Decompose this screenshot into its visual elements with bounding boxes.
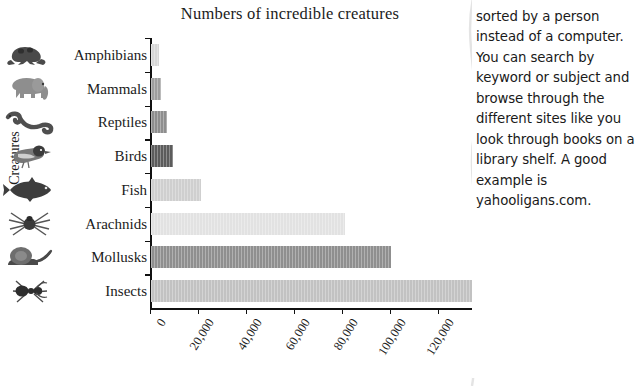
category-label: Mammals (87, 80, 147, 97)
value-tick-label: 20,000 (187, 316, 218, 353)
value-tick-label: 80,000 (331, 316, 362, 353)
bar-chart: Numbers of incredible creatures Creature… (0, 0, 472, 378)
category-label: Insects (105, 283, 147, 300)
bar (151, 246, 391, 268)
bar-texture (151, 246, 391, 268)
category-tick (145, 173, 151, 174)
bar (151, 44, 159, 66)
ant-icon (2, 276, 58, 306)
category-icon (2, 107, 58, 137)
category-icon (2, 242, 58, 272)
category-label: Reptiles (98, 114, 147, 131)
bar (151, 213, 345, 235)
value-tick (150, 308, 151, 314)
category-icon (2, 141, 58, 171)
bar (151, 78, 161, 100)
category-label: Arachnids (85, 215, 147, 232)
category-icon (2, 175, 58, 205)
value-tick (438, 308, 439, 314)
category-tick (145, 274, 151, 275)
spider-icon (2, 209, 58, 239)
bar-texture (151, 78, 161, 100)
value-tick-label: 40,000 (235, 316, 266, 353)
bar (151, 179, 201, 201)
fish-icon (2, 175, 58, 205)
bar (151, 145, 173, 167)
elephant-icon (2, 74, 58, 104)
chart-title: Numbers of incredible creatures (120, 4, 460, 24)
category-label: Birds (114, 148, 147, 165)
category-tick (145, 106, 151, 107)
bar-texture (151, 213, 345, 235)
category-tick (145, 38, 151, 39)
category-label: Fish (121, 181, 147, 198)
category-icon (2, 40, 58, 70)
snail-icon (2, 242, 58, 272)
category-icon (2, 74, 58, 104)
value-tick (294, 308, 295, 314)
value-tick-label: 0 (154, 316, 170, 329)
value-tick (246, 308, 247, 314)
bar (151, 111, 167, 133)
category-tick (145, 72, 151, 73)
category-label: Mollusks (91, 249, 147, 266)
category-icon (2, 209, 58, 239)
bar-texture (151, 44, 159, 66)
bar-texture (151, 179, 201, 201)
category-icon (2, 276, 58, 306)
value-tick-label: 120,000 (423, 316, 457, 358)
snake-icon (2, 107, 58, 137)
value-tick (198, 308, 199, 314)
frog-icon (2, 40, 58, 70)
bar-texture (151, 145, 173, 167)
side-text-panel: websites that have been sorted by a pers… (472, 0, 636, 378)
category-label: Amphibians (74, 46, 147, 63)
value-tick-label: 60,000 (283, 316, 314, 353)
side-text-paragraph: websites that have been sorted by a pers… (472, 0, 636, 212)
bar-texture (151, 111, 167, 133)
value-tick-label: 100,000 (375, 316, 409, 358)
category-tick (145, 139, 151, 140)
bird-icon (2, 141, 58, 171)
value-tick (342, 308, 343, 314)
value-tick (390, 308, 391, 314)
category-tick (145, 207, 151, 208)
category-tick (145, 241, 151, 242)
